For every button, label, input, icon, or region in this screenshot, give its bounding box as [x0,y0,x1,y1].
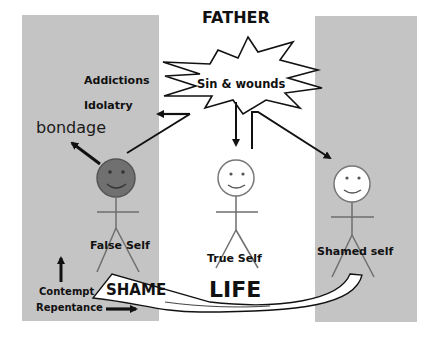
contempt-label: Contempt [39,287,94,297]
shamed-self-figure [331,166,374,277]
life-label: LIFE [209,279,261,301]
shamed-self-label: Shamed self [317,246,393,257]
repentance-label: Repentance [36,303,103,313]
bondage-label: bondage [36,120,106,136]
arrow-to-bondage [72,143,100,164]
sin-wounds-starburst [163,37,322,114]
father-title: FATHER [202,10,270,26]
addictions-label: Addictions [84,75,150,86]
shame-label: SHAME [106,283,166,298]
arrow-to-shamed-self [252,112,330,158]
false-self-label: False Self [90,240,150,251]
arrow-to-idolatry [127,114,190,153]
true-self-label: True Self [207,253,262,264]
false-self-figure [97,159,139,272]
sin-wounds-label: Sin & wounds [197,79,285,91]
idolatry-label: Idolatry [84,100,133,111]
